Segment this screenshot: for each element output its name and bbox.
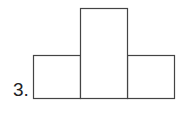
rectangles-figure (0, 0, 189, 122)
right-rectangle (128, 56, 175, 99)
center-rectangle (81, 9, 128, 99)
left-rectangle (34, 56, 81, 99)
